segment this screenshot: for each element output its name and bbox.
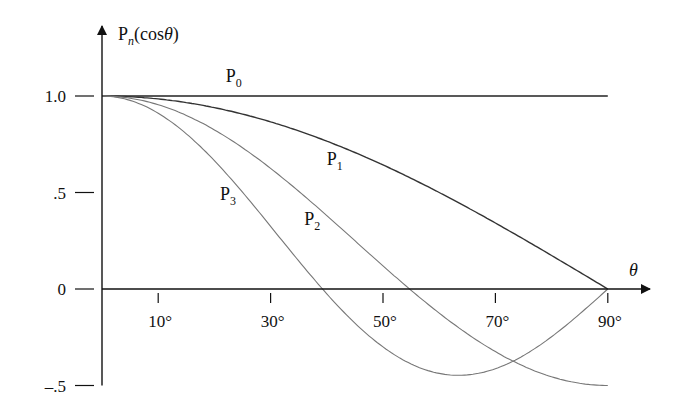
curve-p1 — [102, 96, 608, 289]
x-axis-ticks: 10°30°50°70°90° — [148, 293, 621, 331]
x-tick-label: 70° — [485, 312, 509, 331]
curve-label-p1: P1 — [327, 149, 343, 173]
x-tick-label: 50° — [373, 312, 397, 331]
axes: 1.0.50–.5 10°30°50°70°90° — [44, 26, 650, 396]
curve-labels: P0P1P2P3 — [220, 66, 343, 233]
curve-p2 — [102, 96, 608, 386]
x-axis-title: θ — [629, 260, 638, 280]
y-tick-label: –.5 — [44, 377, 66, 396]
curve-label-p3: P3 — [220, 184, 236, 208]
y-tick-label: .5 — [53, 184, 66, 203]
y-axis-title: Pn(cosθ) — [118, 24, 179, 48]
x-tick-label: 30° — [261, 312, 285, 331]
plot-curves — [102, 96, 608, 386]
x-tick-label: 90° — [598, 312, 622, 331]
curve-label-p0: P0 — [226, 66, 242, 90]
y-tick-label: 0 — [58, 280, 67, 299]
curve-p3 — [102, 96, 608, 375]
legendre-polynomials-chart: 1.0.50–.5 10°30°50°70°90° P0P1P2P3 Pn(co… — [0, 0, 685, 412]
y-axis-ticks: 1.0.50–.5 — [44, 87, 94, 396]
y-tick-label: 1.0 — [45, 87, 66, 106]
x-tick-label: 10° — [148, 312, 172, 331]
curve-label-p2: P2 — [304, 209, 320, 233]
